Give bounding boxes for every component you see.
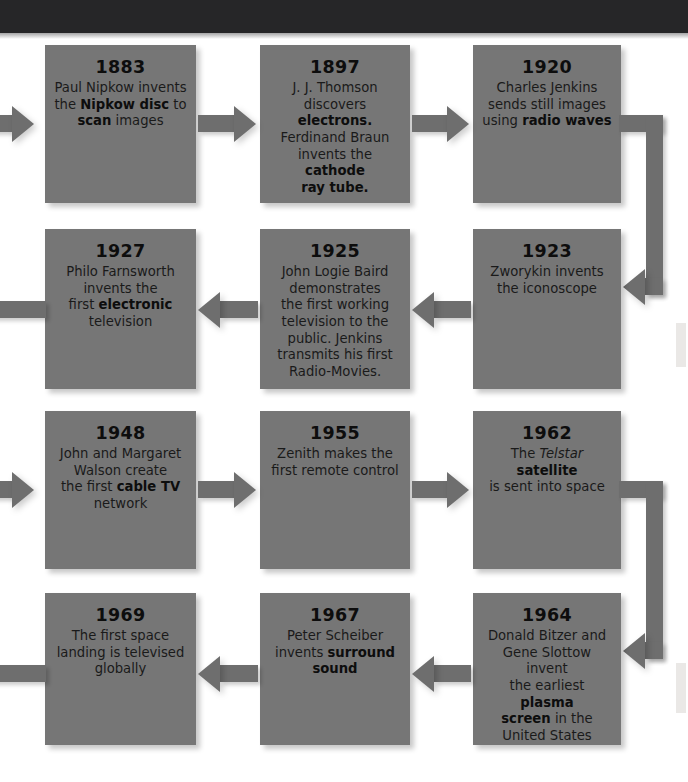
connector-1967-1969-arrowhead bbox=[198, 656, 220, 692]
node-year: 1962 bbox=[482, 422, 612, 444]
node-text: The Telstar satelliteis sent into space bbox=[482, 446, 612, 496]
node-year: 1920 bbox=[482, 56, 612, 78]
node-text: Donald Bitzer andGene Slottow inventthe … bbox=[482, 628, 612, 744]
connector-1920-1923-arrowhead bbox=[623, 269, 645, 305]
connector-1923-1925-shaft bbox=[434, 301, 471, 318]
connector-1923-1925-arrowhead bbox=[412, 292, 434, 328]
node-year: 1923 bbox=[482, 240, 612, 262]
node-text: Charles Jenkinssends still imagesusing r… bbox=[482, 80, 612, 130]
timeline-node-1962: 1962 The Telstar satelliteis sent into s… bbox=[473, 411, 621, 569]
connector-1962-1964-shaft-bottom bbox=[645, 642, 663, 659]
node-year: 1964 bbox=[482, 604, 612, 626]
connector-1920-1923-shaft-bottom bbox=[645, 278, 663, 295]
connector-1897-1920-shaft bbox=[412, 115, 447, 132]
connector-1948-1955-arrowhead bbox=[234, 472, 256, 508]
timeline-node-1967: 1967 Peter Scheiberinvents surroundsound bbox=[260, 593, 410, 745]
connector-1883-1897-shaft bbox=[198, 115, 234, 132]
node-year: 1897 bbox=[269, 56, 401, 78]
node-text: Zenith makes thefirst remote control bbox=[269, 446, 401, 479]
node-year: 1948 bbox=[54, 422, 187, 444]
timeline-node-1883: 1883 Paul Nipkow inventsthe Nipkow disc … bbox=[45, 45, 196, 203]
connector-1969-exit-shaft bbox=[0, 665, 46, 682]
node-year: 1955 bbox=[269, 422, 401, 444]
connector-1955-1962-shaft bbox=[412, 481, 447, 498]
connector-1962-1964-shaft-vertical bbox=[646, 481, 663, 659]
connector-1955-1962-arrowhead bbox=[447, 472, 469, 508]
page-edge-artifact bbox=[676, 663, 686, 713]
timeline-node-1897: 1897 J. J. Thomsondiscovers electrons.Fe… bbox=[260, 45, 410, 203]
page-edge-artifact bbox=[676, 323, 686, 367]
connector-1964-1967-arrowhead bbox=[412, 656, 434, 692]
connector-entry-arrowhead bbox=[12, 106, 34, 142]
node-text: Philo Farnsworthinvents thefirst electro… bbox=[54, 264, 187, 331]
connector-1964-1967-shaft bbox=[434, 665, 471, 682]
connector-1927-exit-shaft bbox=[0, 301, 46, 318]
node-year: 1883 bbox=[54, 56, 187, 78]
top-dark-band bbox=[0, 0, 688, 33]
node-text: Zworykin inventsthe iconoscope bbox=[482, 264, 612, 297]
connector-1967-1969-shaft bbox=[220, 665, 258, 682]
timeline-node-1955: 1955 Zenith makes thefirst remote contro… bbox=[260, 411, 410, 569]
connector-1925-1927-arrowhead bbox=[198, 292, 220, 328]
timeline-node-1964: 1964 Donald Bitzer andGene Slottow inven… bbox=[473, 593, 621, 745]
node-year: 1927 bbox=[54, 240, 187, 262]
connector-1883-1897-arrowhead bbox=[234, 106, 256, 142]
node-year: 1967 bbox=[269, 604, 401, 626]
timeline-node-1969: 1969 The first spacelanding is televised… bbox=[45, 593, 196, 745]
timeline-flowchart: 1883 Paul Nipkow inventsthe Nipkow disc … bbox=[0, 33, 688, 782]
node-text: John Logie Bairddemonstratesthe first wo… bbox=[269, 264, 401, 380]
connector-row3-entry-shaft bbox=[0, 481, 12, 498]
connector-1948-1955-shaft bbox=[198, 481, 234, 498]
node-text: Paul Nipkow inventsthe Nipkow disc tosca… bbox=[54, 80, 187, 130]
node-year: 1925 bbox=[269, 240, 401, 262]
node-text: The first spacelanding is televisedgloba… bbox=[54, 628, 187, 678]
timeline-node-1925: 1925 John Logie Bairddemonstratesthe fir… bbox=[260, 229, 410, 389]
connector-1962-1964-arrowhead bbox=[623, 633, 645, 669]
node-text: Peter Scheiberinvents surroundsound bbox=[269, 628, 401, 678]
timeline-node-1920: 1920 Charles Jenkinssends still imagesus… bbox=[473, 45, 621, 203]
connector-1897-1920-arrowhead bbox=[447, 106, 469, 142]
node-year: 1969 bbox=[54, 604, 187, 626]
connector-row3-entry-arrowhead bbox=[12, 472, 34, 508]
timeline-node-1948: 1948 John and MargaretWalson createthe f… bbox=[45, 411, 196, 569]
node-text: John and MargaretWalson createthe first … bbox=[54, 446, 187, 513]
connector-1920-1923-shaft-vertical bbox=[646, 115, 663, 295]
timeline-node-1923: 1923 Zworykin inventsthe iconoscope bbox=[473, 229, 621, 389]
timeline-node-1927: 1927 Philo Farnsworthinvents thefirst el… bbox=[45, 229, 196, 389]
node-text: J. J. Thomsondiscovers electrons.Ferdina… bbox=[269, 80, 401, 196]
connector-1925-1927-shaft bbox=[220, 301, 258, 318]
connector-entry-shaft bbox=[0, 115, 12, 132]
